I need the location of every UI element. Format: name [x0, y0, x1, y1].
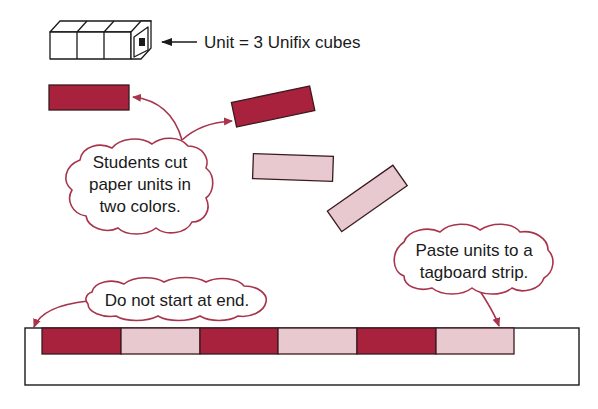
strip-unit-3	[200, 328, 278, 354]
strip-units	[42, 328, 514, 354]
strip-unit-4	[278, 328, 357, 354]
strip-unit-6	[436, 328, 514, 354]
callout-start: Do not start at end.	[86, 278, 266, 321]
callout-paste: Paste units to a tagboard strip.	[394, 224, 553, 294]
callout-cut: Students cut paper units in two colors.	[66, 138, 213, 234]
strip-unit-5	[357, 328, 436, 354]
unit-label: Unit = 3 Unifix cubes	[204, 33, 360, 52]
callout-paste-line-1: Paste units to a	[415, 241, 533, 260]
callout-start-text: Do not start at end.	[105, 291, 250, 310]
unit-measurement-diagram: Unit = 3 Unifix cubes Students cut paper…	[0, 0, 598, 409]
callout-paste-line-2: tagboard strip.	[420, 263, 529, 282]
strip-unit-1	[42, 328, 121, 354]
loose-unit-dark-1	[49, 85, 129, 110]
callout-cut-line-3: two colors.	[99, 197, 180, 216]
callout-cut-line-1: Students cut	[93, 153, 188, 172]
callout-arrow-cut-2	[182, 121, 232, 140]
loose-unit-dark-2	[231, 86, 314, 127]
strip-unit-2	[121, 328, 200, 354]
loose-unit-light-1	[253, 154, 334, 182]
callout-cut-line-2: paper units in	[89, 175, 191, 194]
callout-arrow-cut-1	[133, 97, 182, 140]
loose-unit-light-2	[327, 165, 407, 231]
callout-arrow-start	[34, 301, 88, 327]
unifix-cubes-icon	[50, 21, 151, 59]
